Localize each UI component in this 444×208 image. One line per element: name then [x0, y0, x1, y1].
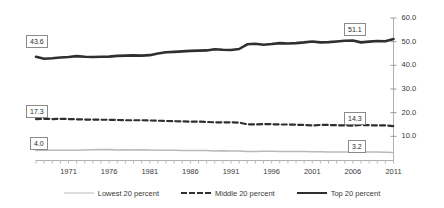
y-axis-tick-label: 10.0: [402, 132, 417, 140]
legend-label-lowest: Lowest 20 percent: [98, 189, 159, 198]
series-line-top-20-percent: [36, 39, 394, 59]
x-axis-tick-label: 1976: [101, 168, 118, 176]
income-share-line-chart: 60.050.040.030.020.010.0 197119761981198…: [0, 0, 444, 208]
legend-line-icon-middle: [181, 190, 211, 197]
y-axis-tick-label: 40.0: [402, 61, 417, 69]
y-axis-tick-label: 60.0: [402, 14, 417, 22]
value-label-top-end: 51.1: [344, 23, 366, 36]
legend-label-middle: Middle 20 percent: [215, 189, 275, 198]
legend-item-lowest-20-percent[interactable]: Lowest 20 percent: [64, 189, 159, 198]
value-label-middle-end: 14.3: [344, 112, 366, 125]
series-layer: [36, 39, 394, 152]
x-axis-tick-label: 1986: [182, 168, 199, 176]
x-axis-tick-label: 1996: [263, 168, 280, 176]
x-axis-tick-label: 2011: [385, 168, 401, 176]
x-axis-tick-label: 2001: [304, 168, 321, 176]
value-label-top-start: 43.6: [26, 35, 48, 48]
value-label-lowest-start: 4.0: [30, 137, 48, 150]
chart-legend: Lowest 20 percent Middle 20 percent Top …: [0, 186, 444, 200]
series-line-middle-20-percent: [36, 119, 394, 126]
value-label-lowest-end: 3.2: [348, 140, 366, 153]
y-axis-tick-label: 20.0: [402, 109, 417, 117]
legend-line-icon-lowest: [64, 190, 94, 197]
x-axis-tick-label: 1991: [223, 168, 240, 176]
x-axis-tick-label: 1981: [141, 168, 158, 176]
series-line-lowest-20-percent: [36, 150, 394, 153]
legend-line-icon-top: [297, 190, 327, 197]
plot-area: [0, 0, 444, 208]
value-label-middle-start: 17.3: [26, 105, 48, 118]
y-axis-tick-label: 30.0: [402, 85, 417, 93]
legend-item-top-20-percent[interactable]: Top 20 percent: [297, 189, 381, 198]
x-axis-tick-label: 1971: [60, 168, 77, 176]
x-axis-tick-label: 2006: [345, 168, 362, 176]
legend-label-top: Top 20 percent: [331, 189, 381, 198]
legend-item-middle-20-percent[interactable]: Middle 20 percent: [181, 189, 275, 198]
y-axis-tick-label: 50.0: [402, 38, 417, 46]
